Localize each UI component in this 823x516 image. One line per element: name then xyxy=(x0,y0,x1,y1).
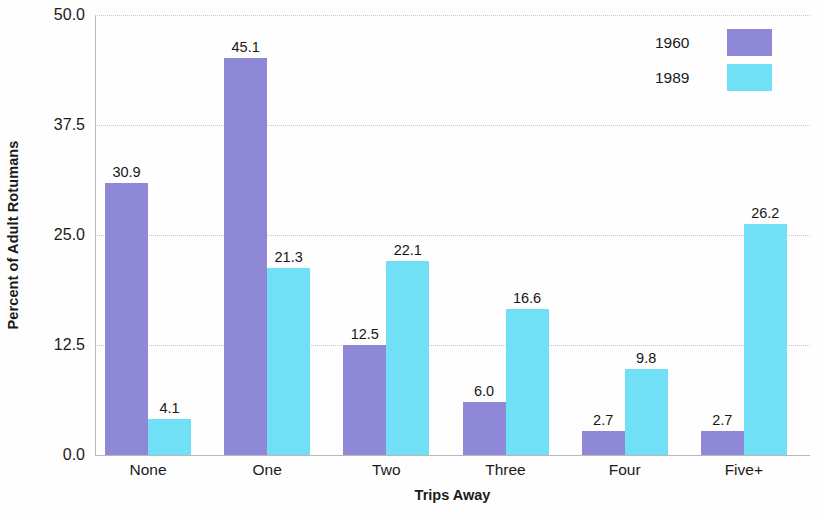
legend-item[interactable]: 1989 xyxy=(655,63,800,92)
bar[interactable]: 4.1 xyxy=(148,419,191,455)
bar[interactable]: 6.0 xyxy=(463,402,506,455)
bar[interactable]: 12.5 xyxy=(343,345,386,455)
bar-value-label: 30.9 xyxy=(112,164,140,180)
bar[interactable]: 9.8 xyxy=(625,369,668,455)
bar-value-label: 26.2 xyxy=(751,205,779,221)
bar-value-label: 21.3 xyxy=(275,249,303,265)
bar[interactable]: 22.1 xyxy=(386,261,429,455)
x-tick-label: One xyxy=(214,461,320,479)
bar-value-label: 16.6 xyxy=(513,290,541,306)
y-tick-label: 12.5 xyxy=(54,336,85,354)
x-tick-label: Four xyxy=(572,461,678,479)
bar-value-label: 2.7 xyxy=(712,412,732,428)
legend: 19601989 xyxy=(655,28,800,98)
bar-value-label: 45.1 xyxy=(232,39,260,55)
bar[interactable]: 21.3 xyxy=(267,268,310,455)
bar-group: 30.94.1None xyxy=(95,15,214,455)
legend-label: 1960 xyxy=(655,34,713,52)
y-axis-title-text: Percent of Adult Rotumans xyxy=(5,141,21,330)
bar[interactable]: 16.6 xyxy=(506,309,549,455)
bar-value-label: 9.8 xyxy=(636,350,656,366)
bar[interactable]: 26.2 xyxy=(744,224,787,455)
x-tick-label: Two xyxy=(333,461,439,479)
legend-item[interactable]: 1960 xyxy=(655,28,800,57)
bar-group: 45.121.3One xyxy=(214,15,333,455)
x-tick-label: Three xyxy=(453,461,559,479)
y-tick-label: 50.0 xyxy=(54,6,85,24)
y-tick-label: 37.5 xyxy=(54,116,85,134)
bar[interactable]: 45.1 xyxy=(224,58,267,455)
bar[interactable]: 2.7 xyxy=(701,431,744,455)
legend-swatch xyxy=(727,64,772,91)
bar[interactable]: 2.7 xyxy=(582,431,625,455)
legend-label: 1989 xyxy=(655,69,713,87)
x-tick-label: None xyxy=(95,461,201,479)
legend-swatch xyxy=(727,29,772,56)
bar-group: 12.522.1Two xyxy=(333,15,452,455)
bar-value-label: 12.5 xyxy=(351,326,379,342)
y-axis-title: Percent of Adult Rotumans xyxy=(0,0,26,470)
bar-group: 6.016.6Three xyxy=(453,15,572,455)
bar-chart-figure: Percent of Adult Rotumans 0.012.525.037.… xyxy=(0,0,823,516)
y-tick-label: 0.0 xyxy=(63,446,85,464)
x-axis-line xyxy=(95,455,810,456)
x-axis-title: Trips Away xyxy=(95,487,810,503)
x-tick-label: Five+ xyxy=(691,461,797,479)
y-tick-label: 25.0 xyxy=(54,226,85,244)
bar-value-label: 4.1 xyxy=(159,400,179,416)
bar-value-label: 22.1 xyxy=(394,242,422,258)
bar[interactable]: 30.9 xyxy=(105,183,148,455)
bar-value-label: 2.7 xyxy=(593,412,613,428)
bar-value-label: 6.0 xyxy=(474,383,494,399)
